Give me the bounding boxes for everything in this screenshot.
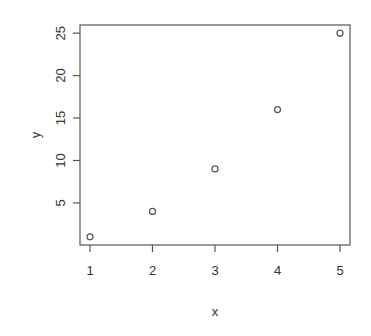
x-tick-label: 1 [86, 263, 93, 278]
x-tick-label: 3 [211, 263, 218, 278]
data-point [212, 166, 218, 172]
plot-frame [80, 25, 350, 245]
data-points [87, 30, 343, 240]
data-point [150, 208, 156, 214]
y-tick-label: 20 [53, 68, 68, 82]
scatter-plot: 12345 510152025 x y [0, 0, 371, 336]
y-axis: 510152025 [53, 26, 80, 207]
y-axis-title: y [28, 131, 43, 138]
x-tick-label: 4 [274, 263, 281, 278]
y-tick-label: 25 [53, 26, 68, 40]
y-tick-label: 10 [53, 153, 68, 167]
data-point [87, 234, 93, 240]
x-tick-label: 5 [336, 263, 343, 278]
x-axis: 12345 [86, 245, 343, 278]
y-tick-label: 5 [53, 199, 68, 206]
data-point [337, 30, 343, 36]
y-tick-label: 15 [53, 111, 68, 125]
x-tick-label: 2 [149, 263, 156, 278]
data-point [275, 107, 281, 113]
x-axis-title: x [212, 304, 219, 319]
